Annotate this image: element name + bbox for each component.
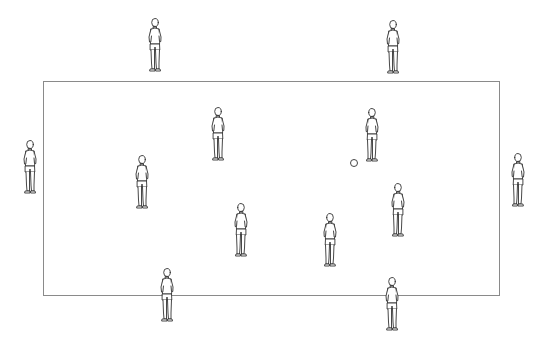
player-figure-outside-top-left xyxy=(144,17,166,73)
player-figure-inside-4 xyxy=(387,182,409,238)
person-icon xyxy=(361,107,383,163)
person-icon xyxy=(156,267,178,323)
player-figure-outside-top-right xyxy=(382,19,404,75)
person-icon xyxy=(131,154,153,210)
player-figure-outside-right xyxy=(507,152,529,208)
player-figure-inside-3 xyxy=(361,107,383,163)
person-icon xyxy=(207,106,229,162)
player-figure-outside-left xyxy=(19,139,41,195)
person-icon xyxy=(319,212,341,268)
person-icon xyxy=(381,276,403,332)
person-icon xyxy=(144,17,166,73)
person-icon xyxy=(382,19,404,75)
person-icon xyxy=(387,182,409,238)
soccer-ball xyxy=(350,159,358,167)
player-figure-inside-2 xyxy=(131,154,153,210)
player-figure-outside-bottom-right xyxy=(381,276,403,332)
playing-field-boundary xyxy=(43,81,500,296)
player-figure-inside-1 xyxy=(207,106,229,162)
drill-diagram xyxy=(0,0,540,348)
person-icon xyxy=(19,139,41,195)
person-icon xyxy=(230,202,252,258)
person-icon xyxy=(507,152,529,208)
player-figure-inside-5 xyxy=(230,202,252,258)
player-figure-outside-bottom-left xyxy=(156,267,178,323)
player-figure-inside-6 xyxy=(319,212,341,268)
